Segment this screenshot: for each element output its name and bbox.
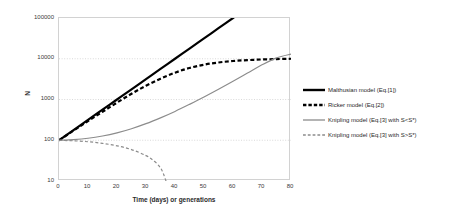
- legend-line-swatch: [303, 115, 325, 125]
- legend-line-swatch: [303, 130, 325, 140]
- series-line-3: [59, 54, 291, 140]
- data-series-group: [59, 18, 291, 181]
- x-axis-title: Time (days) or generations: [58, 196, 290, 203]
- gridlines: [59, 59, 291, 141]
- legend-item-3: Knipling model (Eq.[3] with S<S*): [303, 112, 453, 127]
- legend-item-label: Knipling model (Eq.[3] with S<S*): [328, 116, 417, 124]
- chart-figure: N 10000010000100010010 01020304050607080…: [0, 0, 453, 217]
- legend-item-4: Knipling model (Eq.[3] with S>S*): [303, 127, 453, 142]
- x-tick-label: 40: [164, 183, 184, 189]
- x-tick-label: 50: [193, 183, 213, 189]
- series-line-2: [59, 59, 291, 141]
- y-tick-label: 100: [26, 136, 54, 143]
- y-tick-label: 1000: [26, 95, 54, 102]
- chart-legend: Malthusian model (Eq.[1])Ricker model (E…: [303, 82, 453, 142]
- legend-item-2: Ricker model (Eq.[2]): [303, 97, 453, 112]
- x-tick-label: 0: [48, 183, 68, 189]
- series-line-4: [59, 140, 166, 181]
- x-tick-label: 80: [280, 183, 300, 189]
- x-axis-tick-labels: 01020304050607080: [58, 183, 290, 195]
- x-tick-label: 60: [222, 183, 242, 189]
- legend-line-swatch: [303, 100, 325, 110]
- legend-item-label: Malthusian model (Eq.[1]): [328, 86, 396, 94]
- legend-item-1: Malthusian model (Eq.[1]): [303, 82, 453, 97]
- legend-item-label: Knipling model (Eq.[3] with S>S*): [328, 131, 417, 139]
- x-tick-label: 10: [77, 183, 97, 189]
- plot-area: [58, 17, 290, 180]
- legend-line-swatch: [303, 85, 325, 95]
- y-tick-label: 100000: [26, 14, 54, 21]
- y-tick-label: 10000: [26, 54, 54, 61]
- legend-item-label: Ricker model (Eq.[2]): [328, 101, 384, 109]
- plot-canvas: [59, 18, 291, 181]
- x-tick-label: 20: [106, 183, 126, 189]
- x-tick-label: 30: [135, 183, 155, 189]
- x-tick-label: 70: [251, 183, 271, 189]
